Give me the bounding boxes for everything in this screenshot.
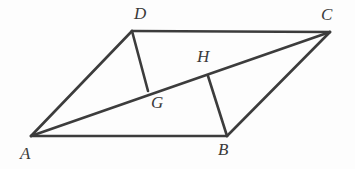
segment-DG	[132, 31, 148, 91]
parallelogram-figure	[0, 0, 355, 169]
vertex-label-H: H	[197, 48, 209, 65]
vertex-label-A: A	[20, 145, 30, 162]
vertex-label-C: C	[321, 6, 332, 23]
diagonal-AC	[31, 32, 330, 136]
diagram-canvas: A B C D G H	[0, 0, 355, 169]
side-CD	[132, 31, 330, 32]
side-DA	[31, 31, 132, 136]
vertex-label-D: D	[134, 5, 146, 22]
side-BC	[227, 32, 330, 136]
vertex-label-G: G	[151, 94, 163, 111]
segment-BH	[208, 76, 227, 136]
segment-layer	[31, 31, 330, 136]
vertex-label-B: B	[218, 141, 228, 158]
